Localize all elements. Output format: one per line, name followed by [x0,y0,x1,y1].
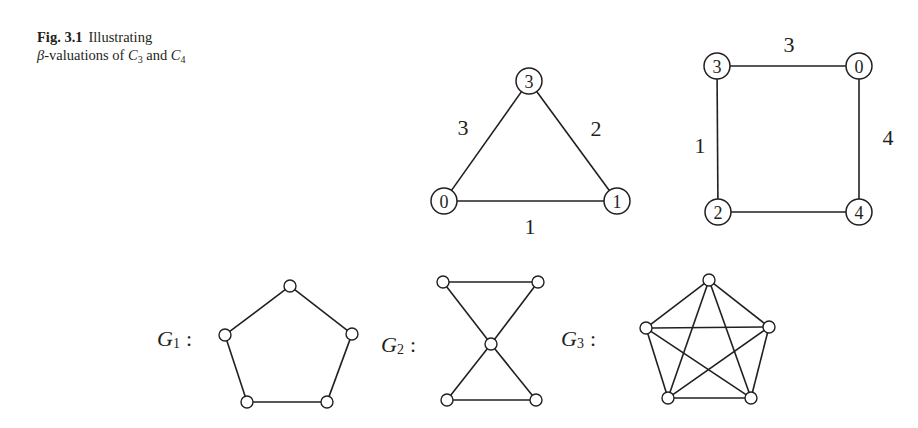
edge-weight-label: 1 [695,133,706,158]
edge [230,290,285,332]
vertex-label: 0 [440,192,449,212]
vertex-circle [346,328,358,340]
vertex-circle [662,392,674,404]
graph-g2-bowtie: G2: [381,276,544,406]
vertex-label: 3 [525,72,534,92]
edge [652,327,763,328]
edge [648,334,666,393]
c4-valuation-graph: 3143024 [695,32,894,226]
vertex-label: 2 [714,203,723,223]
graph-name-label: G2: [381,332,416,357]
edge [711,286,749,393]
vertex-label: 1 [613,192,622,212]
vertex-circle [485,338,497,350]
vertex-circle [763,321,775,333]
vertex-circle [530,394,542,406]
edge [452,92,522,191]
vertex-circle [703,274,715,286]
edge [717,79,718,199]
edge-weight-label: 3 [784,32,795,57]
edge [673,330,764,394]
edge [651,331,746,394]
graph-name-label: G1: [157,326,192,351]
vertex-circle [441,394,453,406]
edge [227,341,245,397]
graph-g3-complete-k5: G3: [561,274,775,404]
vertex-circle [284,280,296,292]
edge-weight-label: 1 [525,214,536,239]
vertex-circle [321,396,333,408]
figure-canvas: 321301 3143024 G1: G2: G3: [0,0,918,428]
vertex-label: 3 [713,57,722,77]
edge-weight-label: 2 [591,116,602,141]
graph-name-label: G3: [561,326,596,351]
vertex-circle [745,392,757,404]
edge [495,287,535,339]
edge [447,287,488,340]
edge [329,340,350,397]
edge-weight-label: 3 [458,115,469,140]
vertex-circle [241,396,253,408]
edge [670,286,707,393]
edge [495,349,532,396]
vertex-label: 0 [855,57,864,77]
edge [537,91,610,190]
edge [714,284,765,324]
edge [295,290,348,331]
graph-g1-pentagon: G1: [157,280,358,408]
c3-valuation-graph: 321301 [431,68,630,239]
vertex-circle [640,322,652,334]
vertex-label: 4 [855,203,864,223]
edge-weight-label: 4 [883,125,894,150]
edge [752,333,767,392]
vertex-circle [219,329,231,341]
vertex-circle [532,276,544,288]
vertex-circle [437,276,449,288]
edge [451,349,488,396]
